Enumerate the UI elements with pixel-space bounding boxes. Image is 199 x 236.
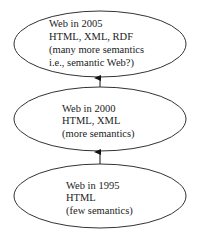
node-line: Web in 2005	[49, 18, 102, 29]
node-line: (many more semantics	[49, 44, 144, 56]
node-line: (few semantics)	[66, 205, 133, 217]
node-web-1995: Web in 1995 HTML (few semantics)	[14, 164, 186, 228]
node-ellipse	[14, 164, 186, 228]
node-web-2000: Web in 2000 HTML, XML (more semantics)	[14, 87, 186, 151]
node-line: (more semantics)	[62, 128, 135, 140]
node-line: HTML, XML	[62, 115, 120, 126]
node-line: HTML, XML, RDF	[49, 31, 133, 42]
node-line: Web in 2000	[62, 103, 115, 114]
node-web-2005: Web in 2005 HTML, XML, RDF (many more se…	[14, 11, 186, 77]
node-line: i.e., semantic Web?)	[49, 57, 134, 69]
web-evolution-diagram: Web in 2005 HTML, XML, RDF (many more se…	[0, 0, 199, 236]
node-line: Web in 1995	[66, 180, 119, 191]
node-line: HTML	[66, 192, 96, 203]
